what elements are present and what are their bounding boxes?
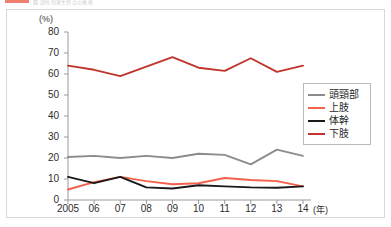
legend-color-swatch: [308, 94, 325, 96]
chart-screenshot: 図 部位別発生割合の推移 (%) 80706050403020100 20050…: [0, 0, 391, 227]
y-axis-tick-label: 10: [35, 173, 59, 184]
series-line-下肢: [68, 57, 303, 76]
chart-legend: 頭頸部上肢体幹下肢: [303, 83, 371, 145]
y-axis-tick-label: 70: [35, 47, 59, 58]
legend-item-label: 下肢: [329, 129, 349, 139]
x-axis-tick-label: 11: [214, 203, 236, 214]
legend-color-swatch: [308, 133, 325, 135]
legend-item-label: 上肢: [329, 103, 349, 113]
y-axis-tick-label: 40: [35, 110, 59, 121]
x-axis-tick-label: 09: [161, 203, 183, 214]
x-axis-tick-label: 06: [83, 203, 105, 214]
y-axis-tick-label: 30: [35, 131, 59, 142]
x-axis-unit-label: (年): [313, 203, 328, 216]
series-line-頭頸部: [68, 150, 303, 165]
series-line-体幹: [68, 177, 303, 189]
x-axis-tick-label: 13: [266, 203, 288, 214]
legend-color-swatch: [308, 107, 325, 109]
legend-color-swatch: [308, 120, 325, 122]
x-axis-tick-label: 10: [188, 203, 210, 214]
x-axis-tick-label: 2005: [51, 203, 85, 214]
y-axis-unit-label: (%): [39, 14, 53, 24]
legend-item-上肢: 上肢: [308, 101, 366, 114]
legend-item-頭頸部: 頭頸部: [308, 88, 366, 101]
legend-item-label: 頭頸部: [329, 90, 359, 100]
legend-item-label: 体幹: [329, 116, 349, 126]
y-axis-tick-label: 20: [35, 152, 59, 163]
y-axis-tick-label: 60: [35, 68, 59, 79]
x-axis-tick-label: 07: [109, 203, 131, 214]
legend-item-下肢: 下肢: [308, 127, 366, 140]
x-axis-tick-label: 14: [292, 203, 314, 214]
x-axis-tick-label: 08: [135, 203, 157, 214]
x-axis-tick-label: 12: [240, 203, 262, 214]
y-axis-tick-label: 50: [35, 89, 59, 100]
y-axis-tick-label: 80: [35, 26, 59, 37]
legend-item-体幹: 体幹: [308, 114, 366, 127]
